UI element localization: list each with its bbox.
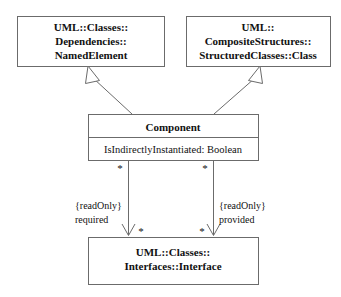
class-name-line: StructuredClasses::Class <box>199 49 317 61</box>
multiplicity-target: * <box>199 225 205 237</box>
multiplicity-source: * <box>202 162 208 174</box>
association-provided[interactable]: * * {readOnly} provided <box>199 161 266 238</box>
multiplicity-source: * <box>117 162 123 174</box>
generalization-component-to-namedelement[interactable] <box>86 66 133 114</box>
class-box-interface[interactable]: UML::Classes:: Interfaces::Interface <box>89 238 259 285</box>
multiplicity-target: * <box>138 225 144 237</box>
association-role-name: provided <box>219 214 255 225</box>
diagram-canvas: UML::Classes:: Dependencies:: NamedEleme… <box>0 0 341 297</box>
association-constraint: {readOnly} <box>219 200 266 211</box>
generalization-arrowhead-icon <box>86 66 100 84</box>
class-name-line: Interfaces::Interface <box>124 260 221 272</box>
generalization-arrowhead-icon <box>249 66 263 84</box>
class-attribute-row: IsIndirectlyInstantiated: Boolean <box>104 144 243 155</box>
class-name-line: UML::Classes:: <box>136 246 211 258</box>
uml-class-diagram: UML::Classes:: Dependencies:: NamedEleme… <box>0 0 341 297</box>
association-required[interactable]: * * {readOnly} required <box>75 161 144 238</box>
generalization-component-to-structuredclass[interactable] <box>214 66 263 114</box>
class-box-named-element[interactable]: UML::Classes:: Dependencies:: NamedEleme… <box>18 17 165 67</box>
class-name-component: Component <box>145 121 200 133</box>
class-name-line: NamedElement <box>55 49 128 61</box>
class-name-line: UML::Classes:: <box>54 21 129 33</box>
association-constraint: {readOnly} <box>75 200 122 211</box>
class-box-component[interactable]: Component IsIndirectlyInstantiated: Bool… <box>89 115 259 161</box>
class-box-structured-class[interactable]: UML:: CompositeStructures:: StructuredCl… <box>187 17 331 67</box>
association-role-name: required <box>75 214 108 225</box>
generalization-line <box>93 78 132 114</box>
class-name-line: Dependencies:: <box>55 35 127 47</box>
class-name-line: CompositeStructures:: <box>205 35 312 47</box>
class-name-line: UML:: <box>242 21 275 33</box>
generalization-line <box>214 78 255 114</box>
